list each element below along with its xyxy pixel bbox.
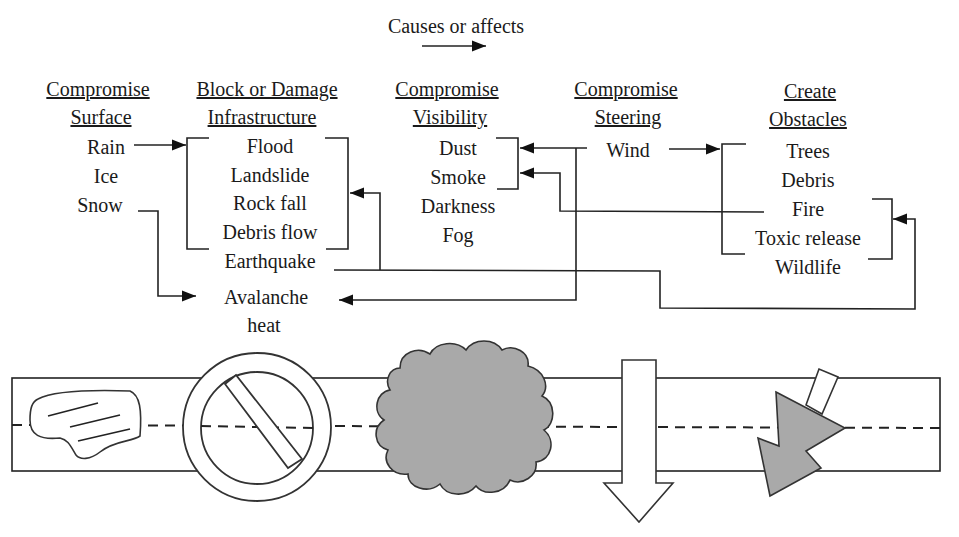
item-trees: Trees xyxy=(786,140,830,162)
item-landslide: Landslide xyxy=(231,164,310,186)
item-rock-fall: Rock fall xyxy=(233,192,307,214)
header-surface-line2: Surface xyxy=(70,106,131,128)
no-entry-icon xyxy=(183,353,331,501)
item-fog: Fog xyxy=(442,224,473,247)
item-debris: Debris xyxy=(781,169,835,191)
column-infrastructure: Block or Damage Infrastructure Flood Lan… xyxy=(187,78,348,336)
header-steering-line2: Steering xyxy=(595,106,662,129)
item-smoke: Smoke xyxy=(430,166,486,188)
arrow-earthquake-to-infrastructure xyxy=(350,193,380,270)
item-fire: Fire xyxy=(792,198,824,220)
column-visibility: Compromise Visibility Dust Smoke Darknes… xyxy=(395,78,518,247)
item-rain: Rain xyxy=(87,136,125,158)
item-debris-flow: Debris flow xyxy=(223,221,319,243)
item-earthquake: Earthquake xyxy=(224,250,315,273)
bracket-visibility-right xyxy=(496,138,518,189)
item-dust: Dust xyxy=(439,137,477,159)
header-surface-line1: Compromise xyxy=(46,78,149,101)
item-wind: Wind xyxy=(606,139,650,161)
legend-label: Causes or affects xyxy=(388,15,524,37)
header-infrastructure-line2: Infrastructure xyxy=(208,106,317,128)
header-obstacles-line2: Obstacles xyxy=(769,108,847,130)
legend: Causes or affects xyxy=(388,15,524,46)
bracket-infrastructure-left xyxy=(187,138,209,249)
header-infrastructure-line1: Block or Damage xyxy=(196,78,337,101)
item-ice: Ice xyxy=(94,165,119,187)
item-darkness: Darkness xyxy=(421,195,496,217)
bracket-infrastructure-right xyxy=(325,138,348,249)
bracket-obstacles-right xyxy=(868,199,892,259)
column-steering: Compromise Steering Wind xyxy=(574,78,677,161)
bracket-obstacles-left xyxy=(722,144,746,254)
item-snow: Snow xyxy=(77,194,123,216)
column-surface: Compromise Surface Rain Ice Snow xyxy=(46,78,149,216)
cloud-icon xyxy=(376,341,553,494)
item-wildlife: Wildlife xyxy=(775,256,841,278)
item-avalanche: Avalanche xyxy=(224,286,308,308)
item-flood: Flood xyxy=(247,135,294,157)
hazard-diagram: Causes or affects Compromise Surface Rai… xyxy=(0,0,959,537)
header-steering-line1: Compromise xyxy=(574,78,677,101)
header-obstacles-line1: Create xyxy=(784,80,836,102)
item-toxic-release: Toxic release xyxy=(755,227,861,249)
item-heat: heat xyxy=(247,314,281,336)
header-visibility-line1: Compromise xyxy=(395,78,498,101)
column-obstacles: Create Obstacles Trees Debris Fire Toxic… xyxy=(722,80,892,278)
header-visibility-line2: Visibility xyxy=(413,106,487,129)
arrow-fire-to-smoke xyxy=(520,173,764,212)
